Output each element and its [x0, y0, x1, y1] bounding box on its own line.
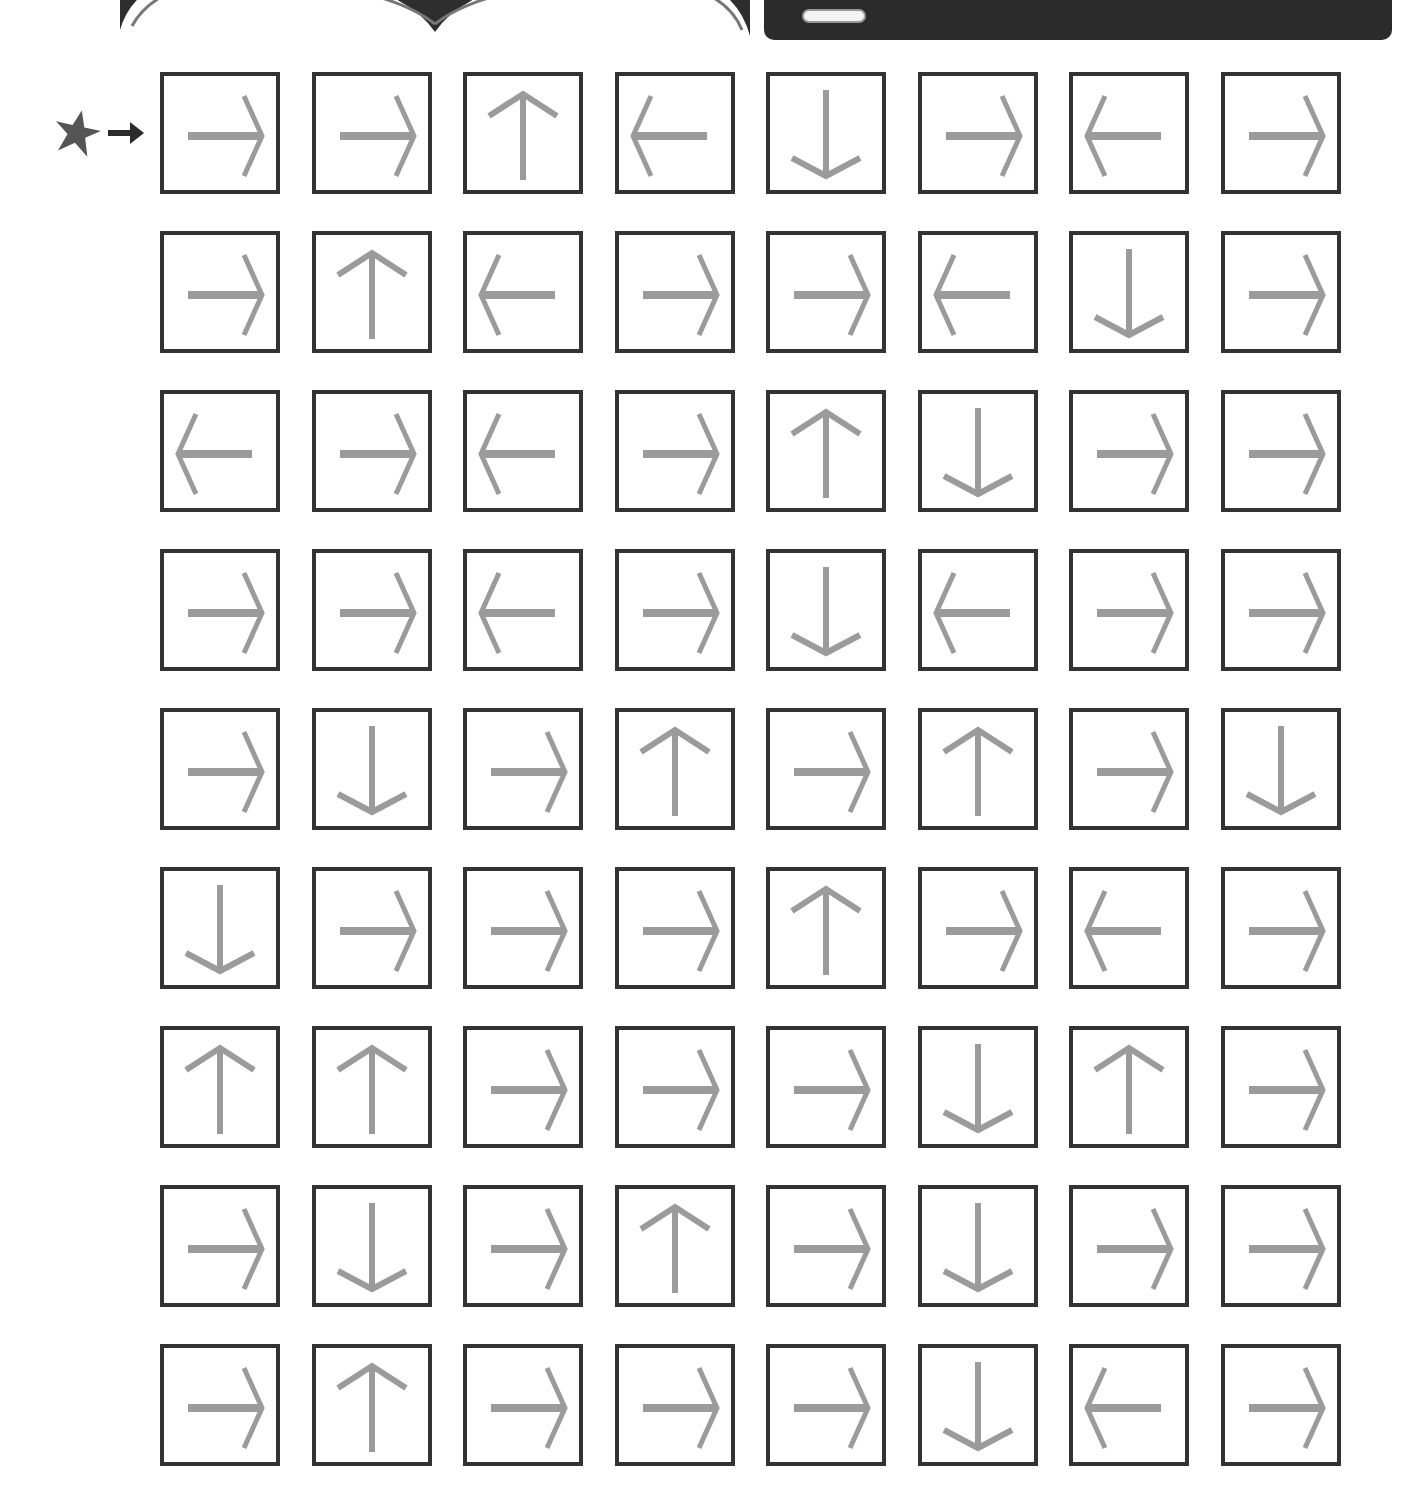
arrow-right-icon [1225, 1348, 1337, 1462]
arrow-right-icon [164, 1189, 276, 1303]
arrow-box[interactable] [463, 1026, 583, 1148]
arrow-box[interactable] [1069, 1185, 1189, 1307]
arrow-box[interactable] [766, 549, 886, 671]
arrow-box[interactable] [463, 708, 583, 830]
arrow-box[interactable] [160, 231, 280, 353]
arrow-box[interactable] [918, 1344, 1038, 1466]
arrow-right-icon [770, 1348, 882, 1462]
arrow-right-icon [922, 76, 1034, 190]
arrow-right-icon [1225, 553, 1337, 667]
arrow-box[interactable] [615, 549, 735, 671]
arrow-down-icon [922, 1189, 1034, 1303]
arrow-left-icon [922, 553, 1034, 667]
arrow-box[interactable] [160, 1185, 280, 1307]
arrow-box[interactable] [463, 390, 583, 512]
arrow-box[interactable] [615, 72, 735, 194]
arrow-box[interactable] [766, 1026, 886, 1148]
arrow-box[interactable] [160, 867, 280, 989]
arrow-box[interactable] [312, 72, 432, 194]
arrow-box[interactable] [1069, 1026, 1189, 1148]
arrow-up-icon [316, 1348, 428, 1462]
arrow-right-icon [1225, 871, 1337, 985]
arrow-box[interactable] [160, 1344, 280, 1466]
arrow-box[interactable] [160, 549, 280, 671]
arrow-box[interactable] [160, 390, 280, 512]
arrow-box[interactable] [463, 1185, 583, 1307]
arrow-down-icon [770, 76, 882, 190]
arrow-box[interactable] [918, 1026, 1038, 1148]
arrow-box[interactable] [918, 1185, 1038, 1307]
arrow-right-icon [316, 871, 428, 985]
arrow-down-icon [316, 1189, 428, 1303]
arrow-box[interactable] [160, 708, 280, 830]
arrow-box[interactable] [463, 1344, 583, 1466]
arrow-box[interactable] [1221, 390, 1341, 512]
arrow-right-icon [467, 712, 579, 826]
arrow-left-icon [1073, 1348, 1185, 1462]
arrow-box[interactable] [615, 1026, 735, 1148]
arrow-box[interactable] [463, 867, 583, 989]
arrow-box[interactable] [1221, 1344, 1341, 1466]
arrow-up-icon [619, 712, 731, 826]
arrow-box[interactable] [1221, 1185, 1341, 1307]
arrow-box[interactable] [918, 549, 1038, 671]
arrow-box[interactable] [1221, 549, 1341, 671]
arrow-box[interactable] [312, 390, 432, 512]
arrow-box[interactable] [312, 549, 432, 671]
arrow-box[interactable] [918, 231, 1038, 353]
banner-pill-decoration [802, 9, 866, 23]
arrow-up-icon [316, 1030, 428, 1144]
arrow-box[interactable] [1069, 72, 1189, 194]
arrow-right-icon [164, 553, 276, 667]
arrow-box[interactable] [766, 231, 886, 353]
arrow-box[interactable] [1221, 231, 1341, 353]
arrow-box[interactable] [463, 72, 583, 194]
arrow-box[interactable] [312, 1185, 432, 1307]
arrow-box[interactable] [615, 708, 735, 830]
arrow-right-icon [467, 871, 579, 985]
arrow-box[interactable] [918, 72, 1038, 194]
arrow-box[interactable] [312, 231, 432, 353]
arrow-box[interactable] [1221, 72, 1341, 194]
arrow-box[interactable] [312, 1026, 432, 1148]
arrow-box[interactable] [766, 1344, 886, 1466]
corner-scan-mark [14, 1500, 34, 1511]
arrow-down-icon [316, 712, 428, 826]
arrow-box[interactable] [160, 1026, 280, 1148]
arrow-box[interactable] [615, 390, 735, 512]
arrow-box[interactable] [615, 231, 735, 353]
arrow-right-icon [1225, 1030, 1337, 1144]
arrow-box[interactable] [463, 231, 583, 353]
arrow-box[interactable] [1221, 1026, 1341, 1148]
arrow-box[interactable] [766, 867, 886, 989]
arrow-right-icon [619, 1030, 731, 1144]
arrow-box[interactable] [1069, 708, 1189, 830]
arrow-box[interactable] [615, 1185, 735, 1307]
arrow-box[interactable] [312, 708, 432, 830]
arrow-box[interactable] [463, 549, 583, 671]
arrow-right-icon [770, 1030, 882, 1144]
arrow-box[interactable] [1069, 1344, 1189, 1466]
arrow-box[interactable] [1069, 867, 1189, 989]
arrow-box[interactable] [918, 390, 1038, 512]
arrow-box[interactable] [1221, 708, 1341, 830]
arrow-box[interactable] [766, 390, 886, 512]
arrow-box[interactable] [312, 867, 432, 989]
arrow-box[interactable] [1069, 231, 1189, 353]
arrow-box[interactable] [615, 867, 735, 989]
arrow-box[interactable] [918, 867, 1038, 989]
arrow-box[interactable] [766, 72, 886, 194]
arrow-box[interactable] [766, 708, 886, 830]
arrow-box[interactable] [160, 72, 280, 194]
arrow-box[interactable] [312, 1344, 432, 1466]
arrow-box[interactable] [1069, 549, 1189, 671]
arrow-box[interactable] [766, 1185, 886, 1307]
arrow-box[interactable] [615, 1344, 735, 1466]
arrow-box[interactable] [1069, 390, 1189, 512]
arrow-up-icon [467, 76, 579, 190]
arrow-left-icon [467, 553, 579, 667]
arrow-down-icon [1225, 712, 1337, 826]
arrow-right-icon [1073, 394, 1185, 508]
arrow-box[interactable] [1221, 867, 1341, 989]
arrow-box[interactable] [918, 708, 1038, 830]
